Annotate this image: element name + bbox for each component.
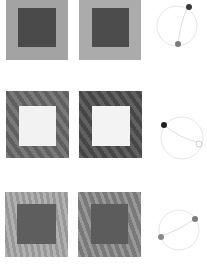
stimulus-row2-right-surround [79,91,142,158]
dial-connector [161,219,195,236]
dial-circle [159,210,199,250]
stimulus-row3-left-center [17,204,56,244]
stimulus-row1-left-surround [6,0,68,60]
dial-connector [164,125,198,142]
stimulus-row2-right-center [92,106,130,146]
dial-connector [178,7,188,44]
dial-circle [157,6,197,46]
stimulus-row3-left-surround [5,192,68,257]
dial-point-a [186,4,192,10]
stimulus-row3-right-center [91,204,128,244]
stimulus-row2-left-surround [6,91,69,158]
dial-point-b [158,234,164,240]
dial-row1 [153,1,203,53]
stimulus-row1-left-center [18,8,56,47]
stimulus-row1-right-center [92,8,129,47]
dial-point-a [161,122,167,128]
dial-point-b [196,141,202,147]
dial-row3 [155,207,205,257]
stimulus-row3-right-surround [78,192,141,257]
dial-circle [161,117,203,159]
stimulus-row1-right-surround [79,0,141,60]
dial-point-b [175,41,181,47]
dial-row2 [157,115,207,165]
dial-point-a [192,216,198,222]
stimulus-row2-left-center [19,106,56,146]
